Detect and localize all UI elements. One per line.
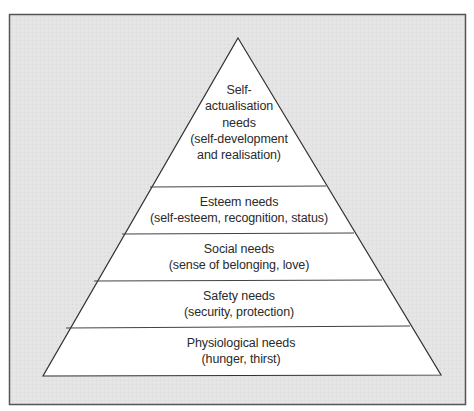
level-title: Social needs [169,241,310,257]
level-social: Social needs (sense of belonging, love) [169,241,310,274]
level-detail: (sense of belonging, love) [169,257,310,273]
level-physiological: Physiological needs (hunger, thirst) [187,335,296,368]
level-esteem: Esteem needs (self-esteem, recognition, … [150,194,328,227]
level-title-line: actualisation [190,98,288,114]
level-title: Esteem needs [150,194,328,210]
level-detail: (security, protection) [184,304,294,320]
level-detail-line: (self-development [190,131,288,147]
level-title: Safety needs [184,288,294,304]
diagram-canvas: Self- actualisation needs (self-developm… [0,0,474,411]
level-detail-line: and realisation) [190,147,288,163]
level-title-line: Self- [190,82,288,98]
level-detail: (self-esteem, recognition, status) [150,210,328,226]
level-self-actualisation: Self- actualisation needs (self-developm… [190,82,288,163]
level-title: Physiological needs [187,335,296,351]
level-title-line: needs [190,115,288,131]
level-detail: (hunger, thirst) [187,351,296,367]
level-safety: Safety needs (security, protection) [184,288,294,321]
